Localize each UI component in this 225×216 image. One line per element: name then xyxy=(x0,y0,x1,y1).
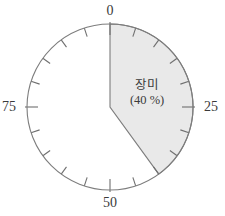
axis-label-bottom: 50 xyxy=(103,195,117,210)
axis-label-left: 75 xyxy=(2,99,16,114)
slice-label-name: 장미 xyxy=(135,78,159,92)
axis-label-top: 0 xyxy=(107,3,114,18)
minor-tick xyxy=(84,28,87,37)
pie-chart-container: 0 25 50 75 장미 (40 %) xyxy=(0,0,225,216)
minor-tick xyxy=(61,40,66,47)
minor-tick xyxy=(43,151,50,156)
minor-tick xyxy=(84,177,87,186)
minor-tick xyxy=(43,58,50,63)
minor-tick xyxy=(61,167,66,174)
slice-label-percent: (40 %) xyxy=(130,93,164,107)
pie-chart-svg: 0 25 50 75 장미 (40 %) xyxy=(0,0,225,216)
minor-tick xyxy=(31,81,40,84)
minor-tick xyxy=(31,130,40,133)
axis-label-right: 25 xyxy=(204,99,218,114)
minor-tick xyxy=(133,177,136,186)
